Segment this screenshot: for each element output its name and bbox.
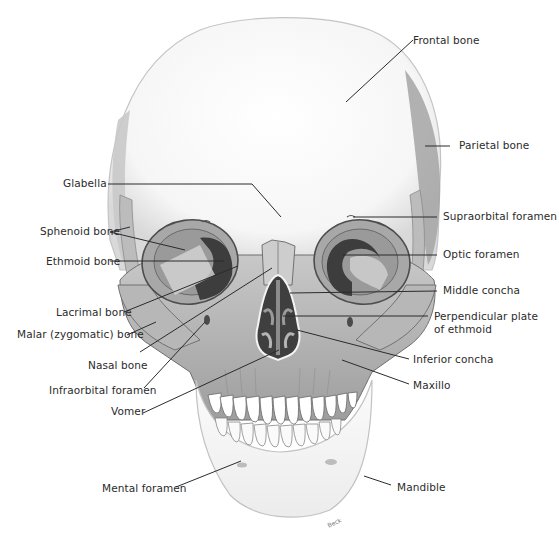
label-text: Infraorbital foramen bbox=[49, 384, 157, 396]
label-lacrimal-bone: Lacrimal bone bbox=[56, 306, 132, 319]
label-maxilla: Maxillo bbox=[413, 379, 451, 392]
label-text: Glabella bbox=[63, 177, 107, 189]
label-suproorbital-foramen: Supraorbital foramen bbox=[443, 210, 557, 223]
mental-foramen-right bbox=[325, 459, 337, 465]
label-mental-foramen: Mental foramen bbox=[102, 482, 187, 495]
skull-anterior-diagram: Frontal boneParietal boneGlabellaSupraor… bbox=[0, 0, 559, 539]
infraorbital-foramen-left bbox=[204, 315, 210, 325]
label-parietal-bone: Parietal bone bbox=[459, 139, 529, 152]
label-text: Mandible bbox=[397, 481, 446, 493]
label-frontal-bone: Frontal bone bbox=[413, 34, 480, 47]
label-text: Optic foramen bbox=[443, 248, 520, 260]
label-glabella: Glabella bbox=[63, 177, 107, 190]
label-text: Mental foramen bbox=[102, 482, 187, 494]
label-nasal-bone: Nasal bone bbox=[88, 359, 148, 372]
label-vomer: Vomer bbox=[111, 405, 145, 418]
label-text: Ethmoid bone bbox=[46, 255, 120, 267]
label-text: Frontal bone bbox=[413, 34, 480, 46]
leader-line-mandible bbox=[364, 476, 391, 485]
label-text: Vomer bbox=[111, 405, 145, 417]
label-infraorbital-foramen: Infraorbital foramen bbox=[49, 384, 157, 397]
label-text-line2: of ethmoid bbox=[434, 323, 492, 335]
label-text: Malar (zygomatic) bone bbox=[17, 328, 144, 340]
label-inferior-concha: Inferior concha bbox=[413, 353, 493, 366]
skull-illustration bbox=[0, 0, 559, 539]
label-text: Nasal bone bbox=[88, 359, 148, 371]
label-sphenoid-bone: Sphenoid bone bbox=[40, 225, 120, 238]
label-text: Supraorbital foramen bbox=[443, 210, 557, 222]
label-text: Maxillo bbox=[413, 379, 451, 391]
label-text: Parietal bone bbox=[459, 139, 529, 151]
label-text: Perpendicular plate bbox=[434, 310, 538, 322]
label-malar-bone: Malar (zygomatic) bone bbox=[17, 328, 144, 341]
label-perpendicular-plate: Perpendicular plateof ethmoid bbox=[434, 310, 538, 336]
label-text: Middle concha bbox=[443, 284, 520, 296]
label-text: Sphenoid bone bbox=[40, 225, 120, 237]
label-text: Lacrimal bone bbox=[56, 306, 132, 318]
mental-foramen-left bbox=[237, 463, 247, 468]
label-text: Inferior concha bbox=[413, 353, 493, 365]
infraorbital-foramen-right bbox=[347, 317, 353, 327]
label-mandible: Mandible bbox=[397, 481, 446, 494]
label-optic-foramen: Optic foramen bbox=[443, 248, 520, 261]
label-ethmoid-bone: Ethmoid bone bbox=[46, 255, 120, 268]
label-middle-concha: Middle concha bbox=[443, 284, 520, 297]
